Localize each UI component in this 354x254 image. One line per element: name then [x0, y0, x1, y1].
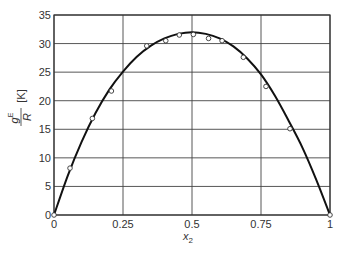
y-tick-label: 5 [45, 180, 51, 192]
x-tick-label: 0.75 [250, 218, 271, 230]
data-point [191, 32, 196, 37]
x-tick-label: 0 [51, 218, 57, 230]
y-tick-label: 15 [39, 123, 51, 135]
svg-text:[K]: [K] [15, 89, 27, 102]
data-point [163, 38, 168, 43]
data-point [328, 213, 333, 218]
data-point [241, 55, 246, 60]
x-tick-label: 0.5 [184, 218, 199, 230]
data-point [52, 213, 57, 218]
svg-text:gE: gE [7, 112, 20, 123]
x-axis-ticks: 00.250.50.751 [51, 218, 333, 230]
data-point [90, 116, 95, 121]
data-point [264, 84, 269, 89]
y-axis-ticks: 05101520253035 [39, 9, 51, 221]
y-axis-label: gE R [K] [7, 89, 33, 126]
data-point [206, 36, 211, 41]
y-tick-label: 10 [39, 152, 51, 164]
chart: 05101520253035 00.250.50.751 x2 gE R [K] [0, 0, 354, 254]
data-point [144, 44, 149, 49]
x-tick-label: 0.25 [112, 218, 133, 230]
data-point [68, 166, 73, 171]
data-point [109, 89, 114, 94]
data-point [288, 126, 293, 131]
data-point [220, 38, 225, 43]
y-tick-label: 25 [39, 66, 51, 78]
svg-text:R: R [21, 113, 33, 121]
y-tick-label: 20 [39, 95, 51, 107]
x-axis-label: x2 [182, 230, 194, 245]
x-tick-label: 1 [327, 218, 333, 230]
data-point [177, 33, 182, 38]
y-tick-label: 35 [39, 9, 51, 21]
y-tick-label: 30 [39, 38, 51, 50]
